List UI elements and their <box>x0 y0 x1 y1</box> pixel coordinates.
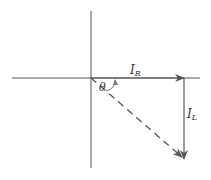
theta-label: θ <box>99 81 106 94</box>
ir-label: IR <box>129 63 141 78</box>
theta-angle-arc-icon <box>106 80 115 91</box>
il-label: IL <box>186 107 197 122</box>
phasor-diagram: θ IR IL <box>0 0 211 180</box>
